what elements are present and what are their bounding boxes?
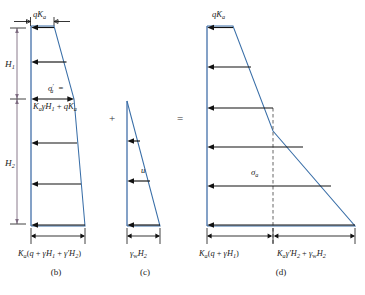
panel-d-bottom-label-left: Ka(q + γH1): [198, 249, 239, 259]
panel-b-pressure-arrows: [31, 25, 85, 228]
panel-d-arrow-5: [207, 183, 331, 189]
panel-d-pressure-arrows: [207, 25, 355, 228]
panel-b-arrow-4: [31, 140, 77, 146]
panel-d-interior-sub: a: [255, 171, 258, 178]
panel-b-sigma-sub: a: [50, 87, 53, 94]
panel-c-interior-label: u: [141, 165, 145, 175]
panel-b-top-label-sub: a: [43, 13, 46, 20]
earth-pressure-figure: qKa H1 H2: [0, 0, 365, 295]
panel-b-h1-label: H1: [4, 59, 15, 70]
panel-b-sv-qka-sub: a: [74, 105, 77, 112]
panel-b: qKa H1 H2: [4, 9, 85, 277]
panel-c-bottom-label: γwH2: [130, 249, 147, 259]
panel-d-bottom-label-right: Kaγ′H2 + γwH2: [276, 249, 326, 259]
panel-d-blr-plus: +: [300, 249, 309, 258]
panel-d-interior-label: σa: [251, 167, 258, 178]
panel-c: u γwH2 (c): [127, 101, 160, 277]
panel-b-arrow-5: [31, 181, 81, 187]
panel-d-top-label-sub: a: [222, 13, 225, 20]
panel-b-bottom-dimension: [31, 228, 85, 244]
panel-b-bl-close: ): [78, 249, 81, 258]
panel-b-sigma-equals: =: [56, 83, 63, 93]
panel-c-arrow-2: [127, 178, 150, 184]
panel-b-bl-plus2: +: [55, 249, 64, 258]
panel-c-bl-h2: 2: [144, 252, 147, 259]
panel-d-bll-close: ): [236, 249, 239, 258]
panel-b-sigma-value: KaγH1 + qKa: [32, 101, 77, 112]
panel-b-sv-plus: +: [55, 101, 64, 111]
panel-b-arrow-6: [31, 222, 85, 228]
panel-d-blr-h2b: 2: [323, 252, 326, 259]
panel-c-bottom-dimension: [127, 228, 160, 244]
panel-d-bll-plus: +: [215, 249, 224, 258]
panel-b-h1-sub: 1: [12, 63, 15, 70]
panel-d-caption: (d): [276, 267, 287, 277]
panel-b-h2-sub: 2: [12, 162, 15, 169]
panel-d: qKa: [198, 9, 355, 277]
panel-b-vertical-dimension: [10, 28, 26, 224]
panel-d-bottom-dimension: [207, 228, 355, 244]
panel-c-pressure-outline: [127, 101, 160, 226]
panel-c-pressure-arrows: [127, 138, 160, 228]
panel-d-arrow-6: [207, 222, 355, 228]
operator-equals: =: [177, 112, 183, 124]
panel-b-h2-label: H2: [4, 158, 15, 169]
panel-b-bottom-label: Ka(q + γH1 + γ′H2): [17, 249, 81, 259]
panel-b-pressure-outline: [31, 26, 85, 226]
panel-b-top-label: qKa: [33, 9, 46, 20]
panel-d-pressure-outline: [207, 26, 355, 226]
panel-d-arrow-2: [207, 64, 251, 70]
panel-b-bl-plus1: +: [34, 249, 43, 258]
panel-d-top-label: qKa: [212, 9, 225, 20]
operator-plus: +: [109, 112, 115, 124]
panel-b-arrow-2: [31, 59, 66, 65]
panel-c-arrow-3: [127, 222, 160, 228]
panel-b-sigma-label: σ′a =: [48, 82, 63, 94]
panel-b-caption: (b): [51, 267, 62, 277]
panel-c-caption: (c): [140, 267, 150, 277]
